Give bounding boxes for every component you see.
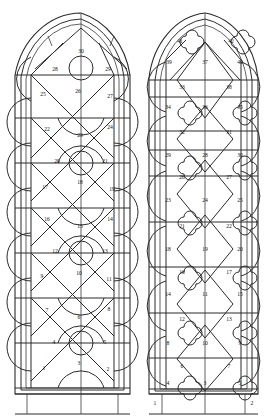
- left-panel-18: 18: [77, 179, 83, 185]
- right-panel-15: 15: [237, 291, 243, 297]
- left-panel-3: 3: [78, 360, 81, 366]
- right-panel-20: 20: [237, 246, 243, 252]
- left-panel-25: 25: [40, 91, 46, 97]
- left-panel-10: 10: [76, 270, 82, 276]
- right-panel-18: 18: [165, 246, 171, 252]
- right-panel-5: 5: [239, 380, 242, 386]
- right-panel-36: 36: [202, 104, 208, 110]
- left-panel-23: 23: [77, 132, 83, 138]
- right-panel-30: 30: [237, 152, 243, 158]
- right-panel-37: 37: [202, 59, 208, 65]
- right-panel-13: 13: [226, 316, 232, 322]
- left-panel-11: 11: [106, 276, 112, 282]
- left-panel-30: 30: [78, 48, 84, 54]
- right-panel-8: 8: [167, 340, 170, 346]
- left-arch-inner-offset: [26, 24, 119, 388]
- left-head-diag-1: [31, 43, 63, 75]
- left-panel-16: 16: [44, 216, 50, 222]
- left-panel-24: 24: [107, 124, 113, 130]
- left-panel-5: 5: [104, 339, 107, 345]
- right-panel-3: 3: [204, 380, 207, 386]
- left-panel-17: 17: [42, 184, 48, 190]
- right-panel-4: 4: [167, 380, 170, 386]
- left-panel-6: 6: [78, 314, 81, 320]
- right-panel-12: 12: [179, 316, 185, 322]
- left-panel-20: 20: [54, 158, 60, 164]
- left-panel-19: 19: [109, 186, 115, 192]
- right-panel-31: 31: [226, 129, 232, 135]
- left-panel-7: 7: [46, 307, 49, 313]
- right-panel-22: 22: [226, 223, 232, 229]
- right-panel-11: 11: [202, 291, 208, 297]
- right-panel-21: 21: [179, 223, 185, 229]
- left-panel-15: 15: [77, 223, 83, 229]
- right-panel-6: 6: [181, 363, 184, 369]
- left-panel-9: 9: [41, 273, 44, 279]
- left-panel-12: 12: [52, 248, 58, 254]
- left-window: 30 28 29 25 26 27 22 23 24 20 21 17 18 1…: [7, 13, 138, 414]
- right-panel-26: 26: [179, 174, 185, 180]
- left-panel-22: 22: [44, 126, 50, 132]
- right-panel-35: 35: [237, 104, 243, 110]
- left-head-cusp-1: [48, 36, 52, 46]
- right-panel-33: 33: [179, 84, 185, 90]
- right-panel-24: 24: [202, 197, 208, 203]
- right-panel-34: 34: [165, 104, 171, 110]
- right-quatrefoils: [178, 30, 257, 400]
- right-sill-corner-label-1: 1: [154, 400, 157, 406]
- right-panel-27: 27: [226, 174, 232, 180]
- right-panel-10: 10: [202, 340, 208, 346]
- left-panel-29: 29: [105, 66, 111, 72]
- left-panel-21: 21: [102, 158, 108, 164]
- left-outer-arch: [15, 13, 130, 394]
- left-panel-13: 13: [102, 248, 108, 254]
- left-panel-8: 8: [108, 306, 111, 312]
- right-panel-42: 42: [228, 38, 234, 44]
- right-panel-19: 19: [202, 246, 208, 252]
- left-panel-4: 4: [53, 339, 56, 345]
- right-panel-39: 39: [166, 59, 172, 65]
- right-inner-arch: [155, 19, 252, 391]
- left-panel-26: 26: [75, 88, 81, 94]
- right-window: 41 42 39 37 40 33 38 34 36 35 32 31 29 2…: [147, 13, 260, 414]
- right-panel-23: 23: [165, 197, 171, 203]
- right-panel-38: 38: [226, 84, 232, 90]
- left-lattice: [7, 56, 138, 388]
- left-panel-28: 28: [52, 66, 58, 72]
- right-panel-32: 32: [179, 129, 185, 135]
- right-panel-25: 25: [237, 197, 243, 203]
- right-panel-16: 16: [179, 269, 185, 275]
- right-sill-corner-label-2: 2: [251, 400, 254, 406]
- diagram-sheet: 30 28 29 25 26 27 22 23 24 20 21 17 18 1…: [0, 0, 274, 416]
- right-panel-17: 17: [226, 269, 232, 275]
- left-panel-1: 1: [43, 365, 46, 371]
- left-panel-27: 27: [107, 93, 113, 99]
- left-panel-14: 14: [107, 216, 113, 222]
- right-panel-7: 7: [228, 363, 231, 369]
- right-panel-40: 40: [237, 59, 243, 65]
- left-panel-2: 2: [107, 366, 110, 372]
- right-panel-28: 28: [202, 152, 208, 158]
- right-panel-9: 9: [239, 340, 242, 346]
- window-diagrams-svg: 30 28 29 25 26 27 22 23 24 20 21 17 18 1…: [0, 0, 274, 416]
- right-panel-41: 41: [177, 38, 183, 44]
- right-panel-14: 14: [165, 291, 171, 297]
- right-panel-29: 29: [165, 152, 171, 158]
